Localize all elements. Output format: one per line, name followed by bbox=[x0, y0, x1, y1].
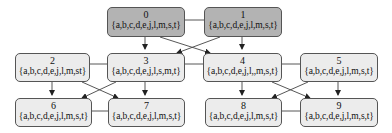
node-3-id: 3 bbox=[108, 55, 184, 66]
edge-1-3 bbox=[177, 37, 220, 53]
node-5: 5 {a,b,c,d,e,j,l,m,s,t} bbox=[300, 53, 378, 82]
node-0-set: {a,b,c,d,e,j,l,m,s,t} bbox=[108, 20, 184, 31]
node-9-id: 9 bbox=[301, 100, 377, 111]
node-7: 7 {a,b,c,d,e,j,l,m,s,t} bbox=[108, 98, 185, 127]
node-9: 9 {a,b,c,d,e,j,l,m,s,t} bbox=[300, 98, 378, 127]
node-7-id: 7 bbox=[109, 100, 184, 111]
node-0-id: 0 bbox=[108, 9, 184, 20]
node-3-set: {a,b,c,d,e,j,l,s,m,t} bbox=[108, 66, 184, 77]
node-6-id: 6 bbox=[16, 100, 91, 111]
node-9-set: {a,b,c,d,e,j,l,m,s,t} bbox=[301, 111, 377, 122]
node-1: 1 {a,b,c,d,e,j,l,m,s,t} bbox=[204, 7, 282, 37]
node-2: 2 {a,b,c,d,e,j,l,m,st} bbox=[15, 53, 90, 82]
node-1-id: 1 bbox=[205, 9, 281, 20]
node-6: 6 {a,b,c,d,e,j,l,m,s,t} bbox=[15, 98, 92, 127]
node-4: 4 {a,b,c,d,e,j,l,,m,s,t} bbox=[203, 53, 282, 82]
node-8: 8 {a,b,c,d,e,j,l,m,s,t} bbox=[205, 98, 282, 127]
node-2-id: 2 bbox=[16, 55, 89, 66]
node-4-id: 4 bbox=[204, 55, 281, 66]
diagram-canvas: 0 {a,b,c,d,e,j,l,m,s,t} 1 {a,b,c,d,e,j,l… bbox=[0, 0, 392, 133]
node-3: 3 {a,b,c,d,e,j,l,s,m,t} bbox=[107, 53, 185, 82]
edge-0-4 bbox=[160, 37, 210, 53]
node-6-set: {a,b,c,d,e,j,l,m,s,t} bbox=[16, 111, 91, 122]
node-8-id: 8 bbox=[206, 100, 281, 111]
node-5-set: {a,b,c,d,e,j,l,m,s,t} bbox=[301, 66, 377, 77]
node-7-set: {a,b,c,d,e,j,l,m,s,t} bbox=[109, 111, 184, 122]
node-0: 0 {a,b,c,d,e,j,l,m,s,t} bbox=[107, 7, 185, 37]
node-5-id: 5 bbox=[301, 55, 377, 66]
node-4-set: {a,b,c,d,e,j,l,,m,s,t} bbox=[204, 66, 281, 77]
node-2-set: {a,b,c,d,e,j,l,m,st} bbox=[16, 66, 89, 77]
node-8-set: {a,b,c,d,e,j,l,m,s,t} bbox=[206, 111, 281, 122]
node-1-set: {a,b,c,d,e,j,l,m,s,t} bbox=[205, 20, 281, 31]
